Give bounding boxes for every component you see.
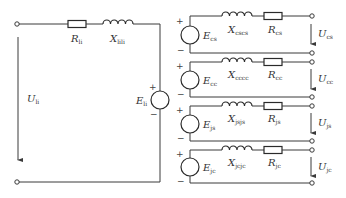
resistor-icon [264, 103, 282, 110]
label-X: Xcccc [227, 69, 249, 81]
label-X: Xjcjc [227, 157, 246, 170]
terminal [310, 181, 314, 185]
terminal-top-left [15, 22, 19, 26]
left-circuit: Rli Xlili Uli Eli + − [15, 20, 169, 184]
minus-sign: − [177, 133, 185, 143]
terminal [310, 14, 314, 18]
label-E: Ejc [202, 162, 216, 175]
inductor-icon [222, 12, 252, 16]
plus-sign: + [176, 16, 184, 26]
inductor-icon [222, 146, 252, 150]
resistor-icon [264, 13, 282, 20]
plus-sign: + [176, 105, 184, 115]
label-E-li: Eli [135, 95, 147, 107]
label-R: Rcc [267, 69, 283, 81]
label-U: Ujs [318, 117, 331, 130]
circuit-diagram: Rli Xlili Uli Eli + − + − Ecs Xcscs Rcs … [0, 0, 346, 198]
inductor-icon [222, 58, 252, 62]
label-E: Ejs [202, 119, 215, 132]
plus-sign: + [176, 61, 184, 71]
plus-sign: + [176, 149, 184, 159]
label-R: Rjc [267, 157, 281, 170]
label-X: Xcscs [227, 24, 248, 36]
inductor-icon [222, 102, 252, 106]
minus-sign: − [177, 45, 185, 55]
voltage-source-icon [151, 91, 169, 109]
voltage-source-icon [181, 158, 199, 176]
resistor-icon [264, 147, 282, 154]
label-U: Ucc [318, 73, 334, 85]
minus-sign: − [177, 176, 185, 186]
label-R: Rcs [267, 24, 282, 36]
label-R-li: Rli [70, 33, 82, 45]
label-U: Ucs [318, 28, 333, 40]
terminal [310, 148, 314, 152]
plus-sign: + [149, 82, 157, 92]
label-E: Ecc [202, 75, 218, 87]
terminal [310, 95, 314, 99]
branch-cc: + − Ecc Xcccc Rcc Ucc [176, 58, 334, 99]
label-E: Ecs [202, 30, 217, 42]
branch-js: + − Ejs Xjsjs Rjs Ujs [176, 102, 331, 143]
minus-sign: − [150, 109, 158, 119]
terminal [310, 139, 314, 143]
terminal [310, 51, 314, 55]
minus-sign: − [177, 89, 185, 99]
inductor-icon [103, 20, 133, 24]
terminal [310, 104, 314, 108]
resistor-icon [264, 59, 282, 66]
label-X: Xjsjs [227, 113, 245, 126]
resistor-icon [68, 21, 86, 28]
branch-jc: + − Ejc Xjcjc Rjc Ujc [176, 146, 332, 186]
terminal-bottom-left [15, 180, 19, 184]
label-R: Rjs [267, 113, 280, 126]
voltage-source-icon [181, 115, 199, 133]
label-X-lili: Xlili [109, 33, 125, 45]
voltage-source-icon [181, 26, 199, 44]
voltage-source-icon [181, 71, 199, 89]
label-U-li: Uli [27, 93, 39, 105]
label-U: Ujc [318, 161, 332, 174]
terminal [310, 60, 314, 64]
branch-cs: + − Ecs Xcscs Rcs Ucs [176, 12, 333, 55]
